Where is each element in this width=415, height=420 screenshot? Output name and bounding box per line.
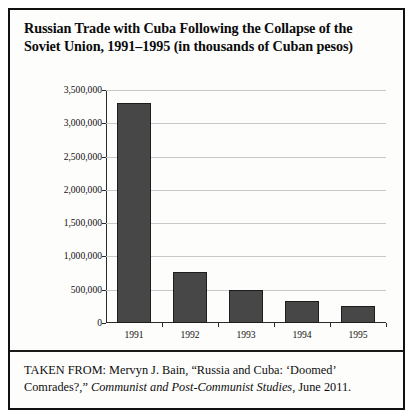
source-suffix: , June 2011. bbox=[292, 380, 351, 394]
y-axis-tick bbox=[102, 157, 106, 158]
x-axis-end-tick bbox=[386, 323, 387, 327]
source-citation: TAKEN FROM: Mervyn J. Bain, “Russia and … bbox=[24, 362, 390, 395]
y-axis-tick bbox=[102, 90, 106, 91]
y-axis-tick bbox=[102, 123, 106, 124]
x-axis-tick bbox=[218, 323, 219, 327]
bar-1992 bbox=[173, 272, 207, 323]
y-axis-tick-label: 500,000 bbox=[28, 285, 102, 295]
y-axis-tick-label: 1,000,000 bbox=[28, 251, 102, 261]
x-axis-tick bbox=[274, 323, 275, 327]
bar-1995 bbox=[341, 306, 375, 323]
x-axis-tick-label: 1992 bbox=[162, 329, 218, 340]
bar-1991 bbox=[117, 103, 151, 323]
chart-figure: Russian Trade with Cuba Following the Co… bbox=[8, 8, 405, 410]
source-journal-title: Communist and Post-Communist Studies bbox=[91, 380, 292, 394]
source-divider bbox=[10, 350, 403, 352]
y-axis-tick bbox=[102, 190, 106, 191]
y-axis-labels: 0500,0001,000,0001,500,0002,000,0002,500… bbox=[24, 10, 102, 350]
y-axis-tick bbox=[102, 256, 106, 257]
y-axis-tick-label: 2,000,000 bbox=[28, 185, 102, 195]
x-axis-tick-label: 1995 bbox=[330, 329, 386, 340]
y-axis-tick-label: 2,500,000 bbox=[28, 152, 102, 162]
y-axis-tick bbox=[102, 223, 106, 224]
y-axis-tick-label: 0 bbox=[28, 318, 102, 328]
x-axis-tick-label: 1993 bbox=[218, 329, 274, 340]
plot-area: 0500,0001,000,0001,500,0002,000,0002,500… bbox=[10, 10, 403, 350]
gridline bbox=[106, 90, 386, 91]
y-axis-tick bbox=[102, 323, 106, 324]
x-axis-tick-label: 1994 bbox=[274, 329, 330, 340]
bar-1994 bbox=[285, 301, 319, 323]
y-axis-tick-label: 1,500,000 bbox=[28, 218, 102, 228]
y-axis-tick-label: 3,500,000 bbox=[28, 85, 102, 95]
x-axis-tick bbox=[162, 323, 163, 327]
y-axis-tick bbox=[102, 290, 106, 291]
chart-axes: 19911992199319941995 bbox=[106, 90, 386, 323]
y-axis-tick-label: 3,000,000 bbox=[28, 118, 102, 128]
bar-1993 bbox=[229, 290, 263, 323]
x-axis-tick bbox=[330, 323, 331, 327]
x-axis-tick-label: 1991 bbox=[106, 329, 162, 340]
